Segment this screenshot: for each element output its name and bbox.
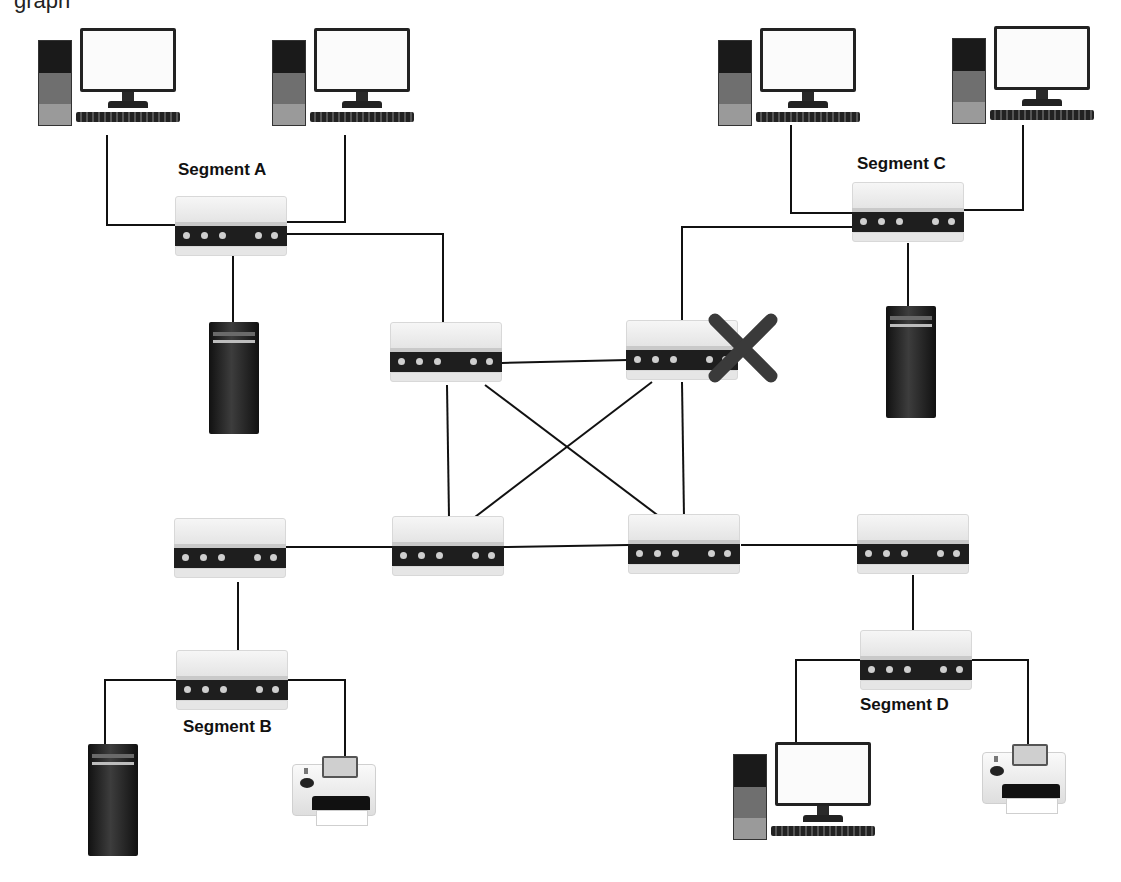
link-core-tr-core-bl <box>475 382 652 517</box>
link-pc-c2-hub-c <box>963 125 1023 210</box>
hub-base <box>390 372 502 382</box>
printer-paper <box>1006 798 1058 814</box>
hub-panel <box>176 680 288 700</box>
monitor-stand <box>1036 90 1048 99</box>
desktop-pc-c2 <box>952 26 1121 136</box>
monitor-base <box>108 101 148 108</box>
hub-d <box>860 630 972 692</box>
hub-a <box>175 196 287 258</box>
pc-tower <box>718 40 752 126</box>
hub-base <box>628 564 740 574</box>
desktop-pc-a2 <box>272 28 452 138</box>
link-hub-a-core-tl <box>287 234 443 322</box>
core-switch-bottom-right <box>628 514 740 576</box>
printer-led <box>304 768 308 774</box>
hub-top <box>392 516 504 544</box>
printer-b <box>292 756 376 832</box>
link-hub-d-pc-d1 <box>796 660 860 747</box>
segment-c-label: Segment C <box>857 154 946 174</box>
server-a <box>209 322 259 434</box>
desktop-pc-c1 <box>718 28 898 138</box>
edge-switch-bottom-left <box>174 518 286 580</box>
printer-slot <box>1002 784 1060 798</box>
hub-top <box>628 514 740 542</box>
hub-top <box>860 630 972 658</box>
failure-x-icon <box>705 310 781 386</box>
hub-panel <box>175 226 287 246</box>
pc-tower <box>272 40 306 126</box>
server-c <box>886 306 936 418</box>
monitor-stand <box>817 806 829 815</box>
hub-base <box>392 566 504 576</box>
segment-b-label: Segment B <box>183 717 272 737</box>
server-body <box>886 306 936 418</box>
keyboard <box>756 112 860 122</box>
link-hub-d-printer-d <box>968 660 1028 747</box>
hub-c <box>852 182 964 244</box>
desktop-pc-a1 <box>38 28 218 138</box>
hub-top <box>852 182 964 210</box>
monitor-stand <box>802 92 814 101</box>
pc-monitor <box>80 28 176 92</box>
edge-switch-bottom-right <box>857 514 969 576</box>
server-bay <box>890 324 932 327</box>
server-bay <box>92 762 134 765</box>
printer-button <box>990 766 1004 776</box>
keyboard <box>990 110 1094 120</box>
monitor-base <box>1022 99 1062 106</box>
core-switch-bottom-left <box>392 516 504 578</box>
link-core-tl-core-tr <box>502 360 628 363</box>
desktop-pc-d1 <box>733 742 913 852</box>
monitor-base <box>803 815 843 822</box>
hub-panel <box>628 544 740 564</box>
pc-monitor <box>760 28 856 92</box>
pc-tower <box>38 40 72 126</box>
keyboard <box>310 112 414 122</box>
hub-top <box>857 514 969 542</box>
server-bay <box>890 316 932 320</box>
keyboard <box>76 112 180 122</box>
server-b <box>88 744 138 856</box>
printer-led <box>994 756 998 762</box>
hub-panel <box>860 660 972 680</box>
segment-a-label: Segment A <box>178 160 266 180</box>
hub-panel <box>390 352 502 372</box>
hub-base <box>860 680 972 690</box>
hub-base <box>176 700 288 710</box>
segment-d-label: Segment D <box>860 695 949 715</box>
server-bay <box>213 332 255 336</box>
server-bay <box>213 340 255 343</box>
link-hub-b-server-b <box>105 680 176 745</box>
hub-b <box>176 650 288 712</box>
link-hub-c-core-tr <box>682 227 853 322</box>
hub-top <box>175 196 287 224</box>
hub-top <box>174 518 286 546</box>
hub-panel <box>174 548 286 568</box>
server-bay <box>92 754 134 758</box>
link-core-tl-core-bl <box>447 385 449 517</box>
link-core-tl-core-br <box>485 385 660 517</box>
printer-slot <box>312 796 370 810</box>
printer-button <box>300 778 314 788</box>
link-hub-b-printer-b <box>287 680 345 757</box>
printer-d <box>982 744 1066 820</box>
link-pc-c1-hub-c <box>791 125 853 213</box>
printer-paper <box>316 810 368 826</box>
monitor-stand <box>122 92 134 101</box>
keyboard <box>771 826 875 836</box>
pc-monitor <box>314 28 410 92</box>
hub-panel <box>392 546 504 566</box>
pc-tower <box>952 38 986 124</box>
printer-screen <box>1012 744 1048 766</box>
pc-tower <box>733 754 767 840</box>
link-core-bl-core-br <box>503 545 628 547</box>
hub-top <box>390 322 502 350</box>
hub-base <box>174 568 286 578</box>
server-body <box>88 744 138 856</box>
link-core-tr-core-br <box>682 382 684 517</box>
monitor-stand <box>356 92 368 101</box>
pc-monitor <box>994 26 1090 90</box>
link-pc-a2-hub-a <box>287 135 345 222</box>
printer-screen <box>322 756 358 778</box>
pc-monitor <box>775 742 871 806</box>
